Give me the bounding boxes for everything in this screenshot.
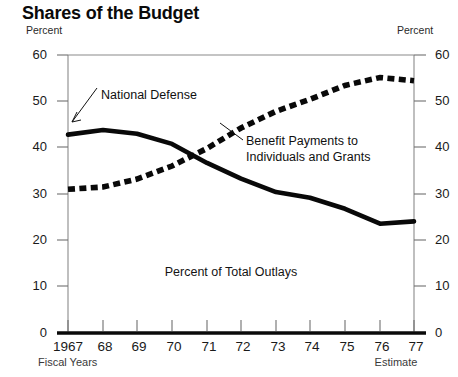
y-tick-label-right: 40 <box>435 139 449 154</box>
x-axis: 1967 68 69 70 71 72 73 74 75 76 77 Fisca… <box>38 320 426 368</box>
x-tick-label: 68 <box>97 339 112 354</box>
annotation-national-defense: National Defense <box>72 88 197 122</box>
y-tick-label-left: 0 <box>40 325 47 340</box>
annotation-national-defense-label: National Defense <box>101 88 197 102</box>
y-tick-label-left: 50 <box>33 93 47 108</box>
y-tick-label-right: 30 <box>435 186 449 201</box>
y-axis-right: 60 50 40 30 20 10 0 <box>414 47 449 340</box>
x-tick-label: 71 <box>201 339 216 354</box>
y-tick-label-left: 10 <box>33 278 47 293</box>
y-tick-label-right: 50 <box>435 93 449 108</box>
x-tick-label: 77 <box>408 339 423 354</box>
line-chart-plot: 60 50 40 30 20 10 0 60 50 40 30 20 10 0 <box>0 0 458 377</box>
x-tick-label: 73 <box>270 339 285 354</box>
chart-page: Shares of the Budget Percent Percent 60 … <box>0 0 458 377</box>
x-tick-label: 72 <box>235 339 250 354</box>
y-tick-label-right: 20 <box>435 232 449 247</box>
x-tick-label: 74 <box>304 339 320 354</box>
x-tick-label: 75 <box>339 339 354 354</box>
y-tick-label-right: 10 <box>435 278 449 293</box>
series-national-defense <box>68 130 414 224</box>
x-tick-label: 70 <box>166 339 181 354</box>
x-axis-label: Fiscal Years <box>38 356 98 368</box>
annotation-benefit-payments-label-line1: Benefit Payments to <box>246 134 358 148</box>
chart-caption: Percent of Total Outlays <box>165 265 297 279</box>
annotation-benefit-payments-label-line2: Individuals and Grants <box>246 150 370 164</box>
y-tick-label-left: 40 <box>33 139 47 154</box>
x-tick-label: 76 <box>374 339 389 354</box>
y-tick-label-right: 0 <box>435 325 442 340</box>
y-tick-label-right: 60 <box>435 47 449 62</box>
x-tick-label: 69 <box>131 339 146 354</box>
y-tick-label-left: 20 <box>33 232 47 247</box>
y-tick-label-left: 60 <box>33 47 47 62</box>
y-axis-left: 60 50 40 30 20 10 0 <box>33 47 68 340</box>
y-tick-label-left: 30 <box>33 186 47 201</box>
estimate-note: Estimate <box>375 356 418 368</box>
x-tick-label: 1967 <box>53 339 83 354</box>
